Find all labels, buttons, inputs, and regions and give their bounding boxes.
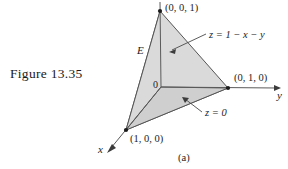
panel-label: (a) <box>178 152 190 163</box>
vertex-label-y-intercept: (0, 1, 0) <box>234 72 268 84</box>
axis-label-y: y <box>276 89 282 101</box>
region-label-E: E <box>136 44 144 56</box>
axis-label-x: x <box>97 143 103 155</box>
vertex-label-x-intercept: (1, 0, 0) <box>130 133 164 145</box>
annotation-base-plane: z = 0 <box>204 107 227 118</box>
vertex-label-apex: (0, 0, 1) <box>165 2 199 14</box>
vertex-dot-x <box>124 128 128 132</box>
annotation-slant-plane: z = 1 − x − y <box>208 29 265 40</box>
vertex-dot-apex <box>158 9 162 13</box>
figure-page: Figure 13.35 (0, 0, 1) (0, 1, 0) <box>0 0 288 169</box>
vertex-dot-y <box>226 86 230 90</box>
tetrahedron-diagram: (0, 0, 1) (0, 1, 0) (1, 0, 0) 0 E z = 1 … <box>0 0 288 169</box>
origin-label: 0 <box>153 79 158 90</box>
x-axis-arrowhead <box>107 144 116 153</box>
